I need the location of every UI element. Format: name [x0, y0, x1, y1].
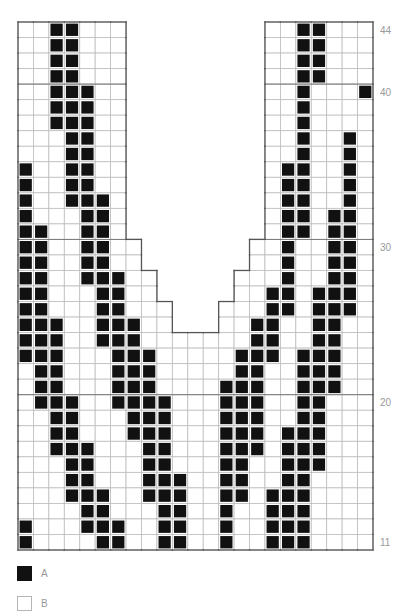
chart-cell — [126, 534, 141, 550]
stitch-color-a — [143, 427, 155, 439]
chart-cell — [33, 38, 48, 54]
stitch-color-a — [267, 536, 279, 548]
chart-cell — [342, 100, 357, 116]
chart-cell — [234, 302, 249, 318]
chart-cell — [311, 534, 326, 550]
stitch-color-a — [313, 319, 325, 331]
stitch-color-a — [313, 427, 325, 439]
stitch-color-a — [66, 458, 78, 470]
stitch-color-a — [328, 381, 340, 393]
chart-cell — [219, 364, 234, 380]
stitch-color-a — [97, 536, 109, 548]
stitch-color-a — [297, 521, 309, 533]
chart-cell — [95, 410, 110, 426]
chart-cell — [219, 348, 234, 364]
chart-cell — [358, 162, 373, 178]
chart-cell — [265, 162, 280, 178]
chart-cell — [358, 364, 373, 380]
chart-cell — [80, 69, 95, 85]
chart-cell — [203, 441, 218, 457]
row-number-label: 20 — [380, 397, 391, 408]
stitch-color-a — [159, 412, 171, 424]
chart-cell — [342, 426, 357, 442]
stitch-color-a — [282, 241, 294, 253]
chart-cell — [280, 115, 295, 131]
stitch-color-a — [328, 350, 340, 362]
chart-cell — [327, 488, 342, 504]
chart-cell — [203, 348, 218, 364]
stitch-color-a — [66, 101, 78, 113]
stitch-color-a — [20, 179, 32, 191]
stitch-color-a — [128, 381, 140, 393]
chart-cell — [280, 348, 295, 364]
chart-cell — [18, 395, 33, 411]
stitch-color-a — [50, 101, 62, 113]
chart-cell — [311, 115, 326, 131]
chart-cell — [358, 472, 373, 488]
stitch-color-a — [97, 257, 109, 269]
chart-cell — [33, 193, 48, 209]
legend-swatch-a — [17, 566, 32, 581]
chart-cell — [33, 503, 48, 519]
row-number-label: 44 — [380, 24, 391, 35]
chart-cell — [49, 286, 64, 302]
chart-cell — [265, 53, 280, 69]
stitch-color-a — [282, 536, 294, 548]
chart-cell — [49, 503, 64, 519]
chart-cell — [49, 457, 64, 473]
chart-cell — [33, 488, 48, 504]
stitch-color-a — [97, 288, 109, 300]
stitch-color-a — [66, 443, 78, 455]
chart-cell — [126, 239, 141, 255]
chart-cell — [250, 302, 265, 318]
stitch-color-a — [35, 288, 47, 300]
chart-cell — [111, 239, 126, 255]
stitch-color-a — [328, 319, 340, 331]
chart-cell — [358, 302, 373, 318]
stitch-color-a — [282, 489, 294, 501]
stitch-color-a — [159, 458, 171, 470]
chart-cell — [157, 333, 172, 349]
stitch-color-a — [297, 70, 309, 82]
chart-cell — [95, 131, 110, 147]
chart-cell — [18, 379, 33, 395]
chart-cell — [219, 333, 234, 349]
chart-cell — [18, 441, 33, 457]
stitch-color-a — [35, 334, 47, 346]
chart-cell — [296, 270, 311, 286]
chart-cell — [95, 426, 110, 442]
chart-cell — [296, 239, 311, 255]
stitch-color-a — [313, 55, 325, 67]
chart-cell — [188, 503, 203, 519]
chart-cell — [265, 472, 280, 488]
chart-cell — [327, 69, 342, 85]
chart-cell — [311, 100, 326, 116]
chart-cell — [80, 302, 95, 318]
chart-cell — [358, 534, 373, 550]
chart-cell — [80, 395, 95, 411]
chart-cell — [358, 255, 373, 271]
stitch-color-a — [297, 474, 309, 486]
chart-cell — [296, 302, 311, 318]
chart-cell — [33, 457, 48, 473]
stitch-color-a — [344, 132, 356, 144]
stitch-color-a — [297, 489, 309, 501]
chart-cell — [188, 472, 203, 488]
stitch-color-a — [297, 225, 309, 237]
chart-cell — [265, 208, 280, 224]
chart-cell — [280, 410, 295, 426]
chart-cell — [265, 255, 280, 271]
stitch-color-a — [50, 55, 62, 67]
chart-cell — [311, 488, 326, 504]
chart-cell — [280, 38, 295, 54]
stitch-color-a — [112, 521, 124, 533]
chart-cell — [265, 69, 280, 85]
chart-cell — [141, 534, 156, 550]
chart-cell — [18, 472, 33, 488]
chart-cell — [49, 177, 64, 193]
chart-cell — [80, 348, 95, 364]
chart-cell — [18, 426, 33, 442]
chart-cell — [342, 503, 357, 519]
stitch-color-a — [344, 148, 356, 160]
stitch-color-a — [297, 412, 309, 424]
